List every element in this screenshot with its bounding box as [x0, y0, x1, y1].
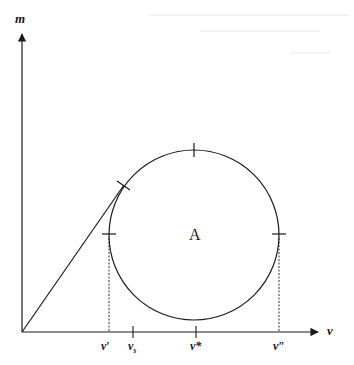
tick-label-v-star: ν* — [190, 340, 201, 352]
y-axis-label: m — [15, 12, 25, 25]
tick-label-v-s: νs — [128, 340, 136, 355]
x-axis-label: ν — [327, 324, 333, 337]
tick-label-v-prime: ν′ — [101, 340, 110, 352]
tick-label-v-double-prime: ν″ — [273, 340, 285, 352]
region-a-label: A — [189, 227, 201, 243]
circle-tick-tangent — [117, 181, 130, 190]
tick-label-v-s-subscript: s — [133, 346, 136, 355]
diagram-svg — [0, 0, 354, 365]
diagram-canvas: m ν A ν′ νs ν* ν″ — [0, 0, 354, 365]
